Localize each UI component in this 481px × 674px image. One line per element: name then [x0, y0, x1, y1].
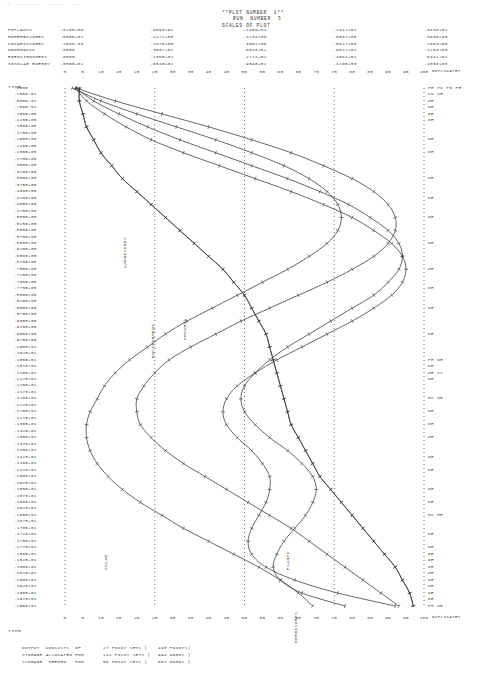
footer-cell: 994 WORDS )	[158, 653, 191, 657]
x-axis-tick-label: 90	[385, 615, 391, 620]
data-point-marker	[290, 527, 292, 530]
duplicate-code-label: PH PC PD PE	[428, 86, 462, 90]
data-point-marker	[373, 306, 375, 309]
data-point-marker	[85, 437, 89, 438]
scales-row-value: .8593+01	[150, 27, 174, 32]
footer-cell: 498 POINTS)	[158, 646, 191, 650]
data-point-marker	[344, 566, 346, 569]
duplicate-code-label: DE	[428, 578, 434, 582]
x-axis-tick-label: 70	[313, 615, 319, 620]
curve-annotation-organic: ORGANIC	[182, 318, 187, 340]
x-axis-tick-label: 100	[420, 69, 429, 74]
x-axis-tick-label: 20	[134, 69, 140, 74]
data-point-marker	[250, 553, 253, 555]
duplicate-code-label: DE	[428, 112, 434, 116]
scales-row-value: .2172+00	[150, 34, 174, 39]
series-line	[76, 88, 399, 606]
data-point-marker	[268, 489, 272, 490]
curve-annotation-environment: ENVIRONMENT	[150, 324, 155, 358]
x-axis-tick-label: 35	[188, 69, 194, 74]
x-axis-top: 0510152025303540455055606570758085909510…	[0, 66, 481, 78]
data-point-marker	[326, 553, 328, 556]
scales-row-value: .3007+02	[150, 47, 174, 52]
data-point-marker	[282, 540, 285, 542]
duplicate-code-label: DE	[428, 409, 434, 413]
data-point-marker	[318, 475, 321, 477]
series-plants	[74, 87, 408, 608]
scales-row-value: .1676+00	[150, 41, 174, 46]
series-organic	[77, 88, 415, 607]
x-axis-tick-label: 15	[116, 69, 122, 74]
footer-cell: STORAGE NEEDED FOR	[22, 660, 84, 664]
duplicate-code-label: DE	[428, 332, 434, 336]
data-point-marker	[373, 294, 375, 297]
duplicate-code-label: DE	[428, 364, 434, 368]
x-axis-tick-label: 75	[331, 615, 337, 620]
duplicate-code-label: DE	[428, 571, 434, 575]
duplicate-code-label: CD CE	[428, 92, 443, 96]
scales-row-value: .7903+00	[424, 41, 448, 46]
footer-cell: STORAGE ALLOCATED FOR	[22, 653, 84, 657]
x-axis-tick-label: 85	[367, 69, 373, 74]
series-line	[76, 88, 403, 606]
series-line	[72, 88, 341, 606]
x-axis-tick-label: 10	[98, 615, 104, 620]
footer-cell: 27 POINT SETS (	[103, 646, 147, 650]
duplicate-code-label: DE	[428, 137, 434, 141]
x-axis-tick-label: 0	[64, 615, 67, 620]
scales-row-value: .1360+02	[150, 54, 174, 59]
x-axis-tick-label: 50	[242, 615, 248, 620]
duplicate-code-label: HC DE	[428, 396, 443, 400]
x-axis-tick-label: 30	[170, 69, 176, 74]
data-point-marker	[96, 462, 99, 464]
scales-row-value: .3952+00	[243, 41, 267, 46]
duplicate-code-label: DE	[428, 196, 434, 200]
footer-cell: 581 WORDS )	[158, 660, 191, 664]
page-corner-marks: .. ...... .... ..	[4, 1, 80, 7]
x-axis-tick-label: 80	[349, 69, 355, 74]
data-point-marker	[146, 345, 148, 348]
data-point-marker	[395, 604, 396, 608]
duplicate-code-label: DE CS	[428, 371, 443, 375]
x-axis-tick-label: 100	[420, 615, 429, 620]
duplicate-code-label: DE	[428, 558, 434, 562]
scales-row-value: .2412+02	[333, 27, 357, 32]
scales-row-value: .4234+00	[243, 34, 267, 39]
series-line	[76, 88, 406, 606]
series-herbivores	[75, 86, 405, 608]
x-axis-tick-label: 80	[349, 615, 355, 620]
scales-row-value: .1856+02	[243, 27, 267, 32]
y-axis-title-bottom: TIME	[8, 628, 22, 633]
data-point-marker	[103, 112, 105, 115]
series-carnivores	[75, 86, 400, 608]
duplicate-code-label: DE	[428, 455, 434, 459]
duplicate-code-label: DE	[428, 176, 434, 180]
duplicate-code-label: DE	[428, 435, 434, 439]
data-point-marker	[139, 501, 141, 504]
data-point-marker	[271, 567, 275, 568]
duplicate-code-label: DE	[428, 552, 434, 556]
scales-row-label: E=ENVIRONMENT	[8, 54, 47, 59]
scales-row-label: C=CARNIVORES	[8, 41, 44, 46]
data-point-marker	[164, 332, 166, 335]
footer-cell: 85 POINT SETS (	[103, 660, 147, 664]
scales-row-value: .6015+02	[243, 47, 267, 52]
scales-row-value: .1500-03	[60, 41, 84, 46]
data-point-marker	[142, 385, 145, 387]
plot-canvas	[0, 78, 481, 612]
x-axis-tick-label: 40	[206, 615, 212, 620]
duplicate-code-label: DE	[428, 105, 434, 109]
duplicate-code-label: DE	[428, 591, 434, 595]
x-axis-tick-label: 25	[152, 615, 158, 620]
scales-row-value: .9022+02	[333, 47, 357, 52]
scales-row-label: D=ORGANIC	[8, 47, 35, 52]
scales-row-value: .5927+00	[333, 41, 357, 46]
duplicate-code-label: PH DE	[428, 358, 443, 362]
x-axis-unit-label: DUPLICATES	[432, 69, 461, 73]
curve-annotation-herbivores: HERBIVORES	[293, 612, 298, 643]
data-point-marker	[398, 604, 400, 607]
data-point-marker	[182, 462, 184, 465]
duplicate-code-label: DE	[428, 532, 434, 536]
duplicate-code-label: DE	[428, 545, 434, 549]
data-point-marker	[77, 101, 81, 102]
